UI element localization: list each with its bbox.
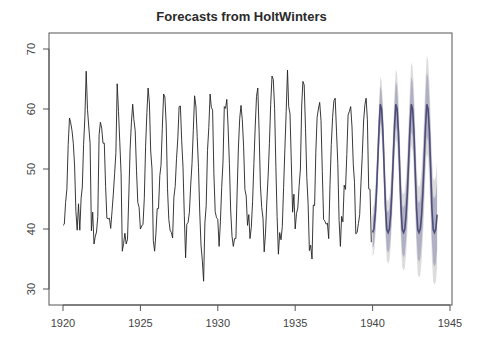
y-tick-label: 30 — [25, 283, 37, 295]
x-tick-label: 1930 — [206, 317, 230, 329]
x-tick-label: 1940 — [360, 317, 384, 329]
y-tick-label: 50 — [25, 163, 37, 175]
y-tick-label: 70 — [25, 43, 37, 55]
plot-area: 1920192519301935194019453040506070 — [0, 0, 483, 344]
forecast-intervals — [373, 56, 438, 285]
y-tick-label: 40 — [25, 223, 37, 235]
x-tick-label: 1945 — [438, 317, 462, 329]
x-tick-label: 1920 — [51, 317, 75, 329]
x-tick-label: 1925 — [128, 317, 152, 329]
y-tick-label: 60 — [25, 103, 37, 115]
x-tick-label: 1935 — [283, 317, 307, 329]
observed-line — [63, 70, 371, 281]
